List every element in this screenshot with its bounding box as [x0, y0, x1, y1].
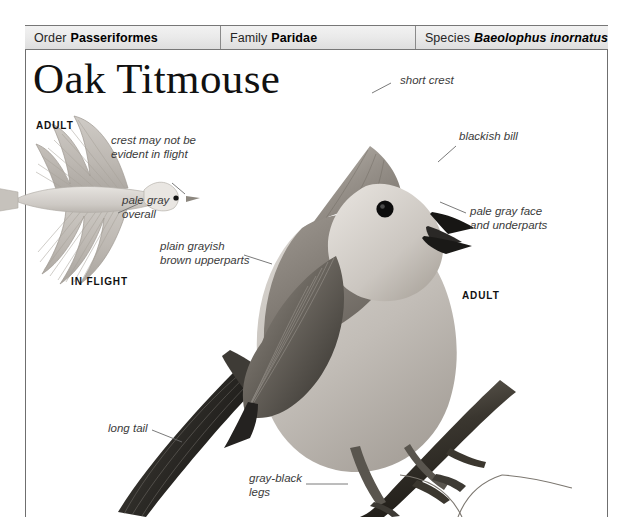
plate-label-in-flight: IN FLIGHT [71, 276, 128, 287]
plate-label-adult-flight: ADULT [36, 120, 74, 131]
annotation-long-tail: long tail [108, 422, 148, 436]
taxonomy-cell-family: Family Paridae [220, 26, 415, 49]
annotation-legs: gray-black legs [249, 472, 302, 499]
annotation-blackish-bill: blackish bill [459, 130, 518, 144]
leader-crest-flight [172, 183, 185, 194]
taxonomy-value-family: Paridae [271, 31, 317, 45]
taxonomy-value-order: Passeriformes [70, 31, 157, 45]
taxonomy-label-order: Order [34, 31, 66, 45]
annotation-crest-in-flight: crest may not be evident in flight [111, 134, 196, 161]
leader-blackish-bill [438, 146, 456, 162]
taxonomy-cell-order: Order Passeriformes [25, 26, 220, 49]
taxonomy-label-species: Species [425, 31, 470, 45]
leader-long-tail [152, 430, 182, 442]
plate-label-adult-perched: ADULT [462, 290, 500, 301]
illustration-stage: ADULT IN FLIGHT ADULT crest may not be e… [0, 50, 626, 517]
taxonomy-label-family: Family [230, 31, 267, 45]
annotation-short-crest: short crest [400, 74, 454, 88]
leader-short-crest [372, 83, 391, 93]
taxonomy-header: Order Passeriformes Family Paridae Speci… [25, 25, 608, 50]
annotation-pale-gray-overall: pale gray overall [122, 194, 169, 221]
annotation-upperparts: plain grayish brown upperparts [160, 240, 250, 267]
field-guide-page: Order Passeriformes Family Paridae Speci… [0, 0, 626, 517]
taxonomy-cell-species: Species Baeolophus inornatus [415, 26, 608, 49]
taxonomy-value-species: Baeolophus inornatus [474, 31, 608, 45]
leader-pale-gray-face [440, 202, 466, 213]
annotation-pale-gray-face: pale gray face and underparts [470, 205, 547, 232]
